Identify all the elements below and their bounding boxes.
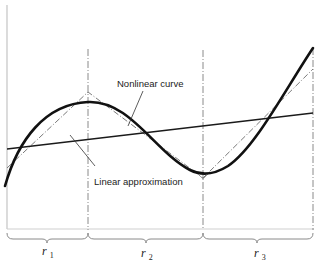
linear-approximation-label: Linear approximation [94, 176, 183, 187]
region-braces [7, 233, 313, 243]
nonlinear-curve [5, 48, 313, 186]
region-label-r2: r2 [141, 246, 153, 262]
nonlinear-curve-leader [128, 91, 143, 126]
brace-r1 [7, 233, 88, 243]
brace-r3 [203, 233, 313, 243]
nonlinear-curve-label: Nonlinear curve [117, 78, 184, 89]
diagram-figure: Nonlinear curve Linear approximation r1 … [0, 0, 325, 268]
region-label-r3: r3 [254, 246, 266, 262]
brace-r2 [88, 233, 203, 243]
region-label-r1: r1 [42, 244, 54, 260]
region-dividers [88, 48, 313, 230]
